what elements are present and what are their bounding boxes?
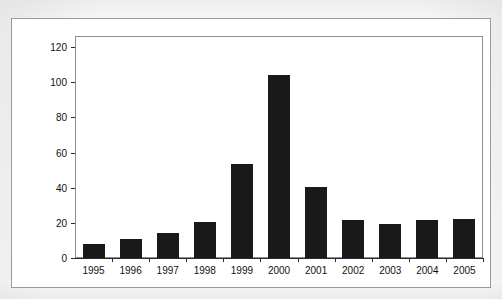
bar-1995 (83, 244, 105, 258)
bar-2003 (379, 224, 401, 258)
bar-2002 (342, 220, 364, 258)
bars-layer (0, 0, 502, 299)
bar-2005 (453, 219, 475, 258)
bar-1996 (120, 239, 142, 258)
bar-2004 (416, 220, 438, 258)
bar-2000 (268, 75, 290, 258)
bar-1999 (231, 164, 253, 258)
figure-root: $ Billion invested 020406080100120199519… (0, 0, 502, 299)
bar-1998 (194, 222, 216, 258)
bar-1997 (157, 233, 179, 258)
bar-2001 (305, 187, 327, 258)
